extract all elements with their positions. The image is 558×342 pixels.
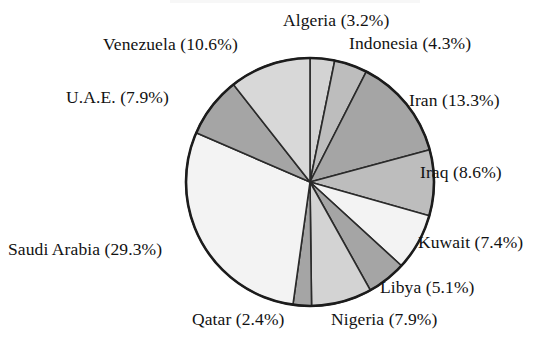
slice-label-nigeria: Nigeria (7.9%) <box>331 310 437 328</box>
slice-label-iran: Iran (13.3%) <box>409 91 500 109</box>
pie-chart-figure: Algeria (3.2%) Indonesia (4.3%) Iran (13… <box>0 0 558 342</box>
slice-label-qatar: Qatar (2.4%) <box>192 310 285 328</box>
slice-label-iraq: Iraq (8.6%) <box>420 163 502 181</box>
slice-label-venezuela: Venezuela (10.6%) <box>103 35 238 53</box>
slice-label-kuwait: Kuwait (7.4%) <box>418 233 523 251</box>
slice-label-saudi-arabia: Saudi Arabia (29.3%) <box>8 240 162 258</box>
slice-label-indonesia: Indonesia (4.3%) <box>349 34 471 52</box>
slice-label-algeria: Algeria (3.2%) <box>283 11 389 29</box>
slice-label-libya: Libya (5.1%) <box>380 278 475 296</box>
slice-label-uae: U.A.E. (7.9%) <box>66 88 169 106</box>
